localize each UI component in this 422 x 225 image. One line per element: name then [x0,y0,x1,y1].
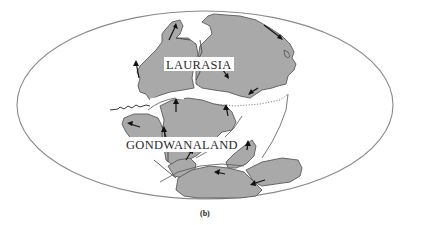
spreading-ridge [110,105,150,110]
ocean-margin-line [262,94,288,158]
supercontinent-map: LAURASIA GONDWANALAND (b) [0,0,422,225]
figure-caption: (b) [200,209,210,218]
laurasia-east [196,14,296,98]
laurasia-label: LAURASIA [166,58,232,72]
gondwanaland-label: GONDWANALAND [126,138,238,152]
